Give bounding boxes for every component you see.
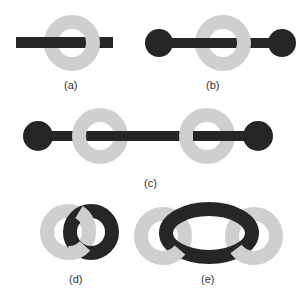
panel-label-e: (e): [201, 273, 214, 285]
panel-a: (a): [16, 22, 113, 91]
ring-light-right-overlap: [236, 249, 254, 258]
ball-right: [268, 29, 296, 57]
figure-canvas: (a) (b) (c) (d) (e): [0, 0, 296, 301]
panel-b: (b): [145, 22, 296, 91]
ring-light-left-overlap: [163, 250, 180, 258]
ball-left: [145, 29, 173, 57]
panel-e: (e): [141, 209, 276, 285]
panel-label-b: (b): [206, 79, 219, 91]
panel-c: (c): [23, 115, 273, 189]
panel-label-d: (d): [69, 273, 82, 285]
panel-label-c: (c): [144, 177, 157, 189]
ring-light-overlap: [68, 246, 85, 253]
bar-front: [16, 37, 83, 48]
ball-right: [243, 121, 273, 151]
panel-label-a: (a): [64, 79, 77, 91]
panel-d: (d): [47, 211, 112, 285]
ring-light-overlap-top: [79, 212, 89, 232]
bar-front-middle: [88, 131, 179, 141]
ball-left: [23, 121, 53, 151]
